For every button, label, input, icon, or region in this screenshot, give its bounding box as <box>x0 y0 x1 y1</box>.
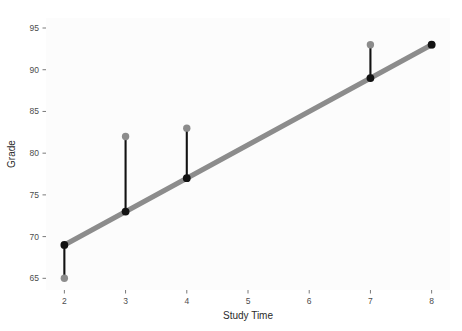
fitted-data-point <box>60 241 68 249</box>
y-axis-title: Grade <box>6 140 17 168</box>
x-tick-label: 7 <box>368 296 373 306</box>
observed-data-point <box>183 124 190 131</box>
x-axis-tick-marks <box>64 290 431 294</box>
plot-canvas: 65707580859095 2345678 Study Time Grade <box>0 0 462 331</box>
x-axis-tick-labels: 2345678 <box>62 296 434 306</box>
y-axis-tick-marks <box>43 28 47 278</box>
y-tick-label: 85 <box>30 106 40 116</box>
y-axis-tick-labels: 65707580859095 <box>30 23 40 283</box>
y-tick-label: 80 <box>30 148 40 158</box>
residual-scatter-chart: 65707580859095 2345678 Study Time Grade <box>0 0 462 331</box>
fitted-data-point <box>428 41 436 49</box>
fitted-data-point <box>122 208 130 216</box>
y-tick-label: 70 <box>30 232 40 242</box>
x-tick-label: 4 <box>184 296 189 306</box>
fitted-data-point <box>367 74 375 82</box>
y-tick-label: 95 <box>30 23 40 33</box>
y-tick-label: 90 <box>30 65 40 75</box>
x-tick-label: 6 <box>307 296 312 306</box>
x-axis-title: Study Time <box>223 310 273 321</box>
y-tick-label: 75 <box>30 190 40 200</box>
plot-panel-background <box>46 18 450 290</box>
x-tick-label: 3 <box>123 296 128 306</box>
observed-data-point <box>122 133 129 140</box>
x-tick-label: 2 <box>62 296 67 306</box>
x-tick-label: 5 <box>246 296 251 306</box>
y-tick-label: 65 <box>30 273 40 283</box>
observed-data-point <box>367 41 374 48</box>
observed-data-point <box>61 275 68 282</box>
fitted-data-point <box>183 174 191 182</box>
x-tick-label: 8 <box>429 296 434 306</box>
